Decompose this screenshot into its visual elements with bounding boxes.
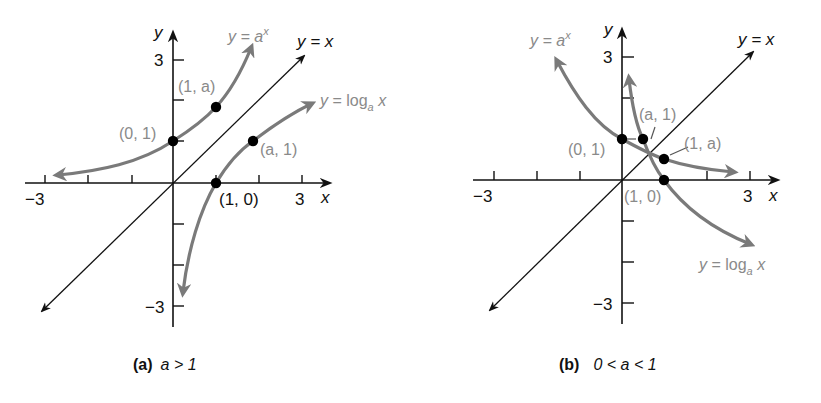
label-1-0: (1, 0)	[219, 190, 259, 209]
y-max-label: 3	[154, 51, 163, 70]
panel-a: −3 3 3 −3 x y y = ax y = x yy = log = lo…	[25, 23, 387, 373]
x-axis-label: x	[320, 188, 330, 207]
label-0-1: (0, 1)	[568, 141, 605, 158]
log-curve-label: yy = log = loga x	[319, 92, 387, 113]
label-1-a: (1, a)	[178, 78, 215, 95]
point-0-1	[168, 136, 178, 146]
identity-line-label: y = x	[737, 30, 775, 49]
point-1-a	[659, 154, 669, 164]
y-axis-label: y	[603, 20, 614, 39]
x-axis-label: x	[768, 186, 778, 205]
caption-b: (b)0 < a < 1	[559, 356, 657, 373]
exp-curve-label: y = ax	[529, 29, 571, 49]
leader-a-1	[651, 127, 655, 139]
point-1-0	[211, 178, 221, 188]
y-max-label: 3	[603, 48, 612, 67]
identity-line-label: y = x	[296, 32, 334, 51]
x-max-label: 3	[295, 190, 304, 209]
point-0-1	[617, 134, 627, 144]
point-1-0	[659, 175, 669, 185]
label-1-a: (1, a)	[684, 135, 721, 152]
point-a-1	[248, 136, 258, 146]
x-max-label: 3	[743, 187, 752, 206]
x-min-label: −3	[25, 190, 44, 209]
label-a-1: (a, 1)	[260, 141, 297, 158]
log-curve-label: yy = log = loga x	[698, 256, 766, 277]
panel-b: −3 3 3 −3 x y y = ax y = x yy = log = lo…	[473, 20, 778, 373]
point-a-1	[638, 134, 648, 144]
y-min-label: −3	[145, 298, 164, 317]
logarithm-curve	[629, 79, 750, 244]
caption-a: (a)a > 1	[133, 356, 197, 373]
x-min-label: −3	[473, 187, 492, 206]
figure-canvas: −3 3 3 −3 x y y = ax y = x yy = log = lo…	[0, 0, 821, 403]
label-0-1: (0, 1)	[119, 125, 156, 142]
y-axis-label: y	[153, 23, 164, 42]
point-1-a	[211, 102, 221, 112]
y-min-label: −3	[593, 295, 612, 314]
label-a-1: (a, 1)	[639, 106, 676, 123]
exp-curve-label: y = ax	[227, 25, 269, 45]
label-1-0: (1, 0)	[624, 188, 661, 205]
